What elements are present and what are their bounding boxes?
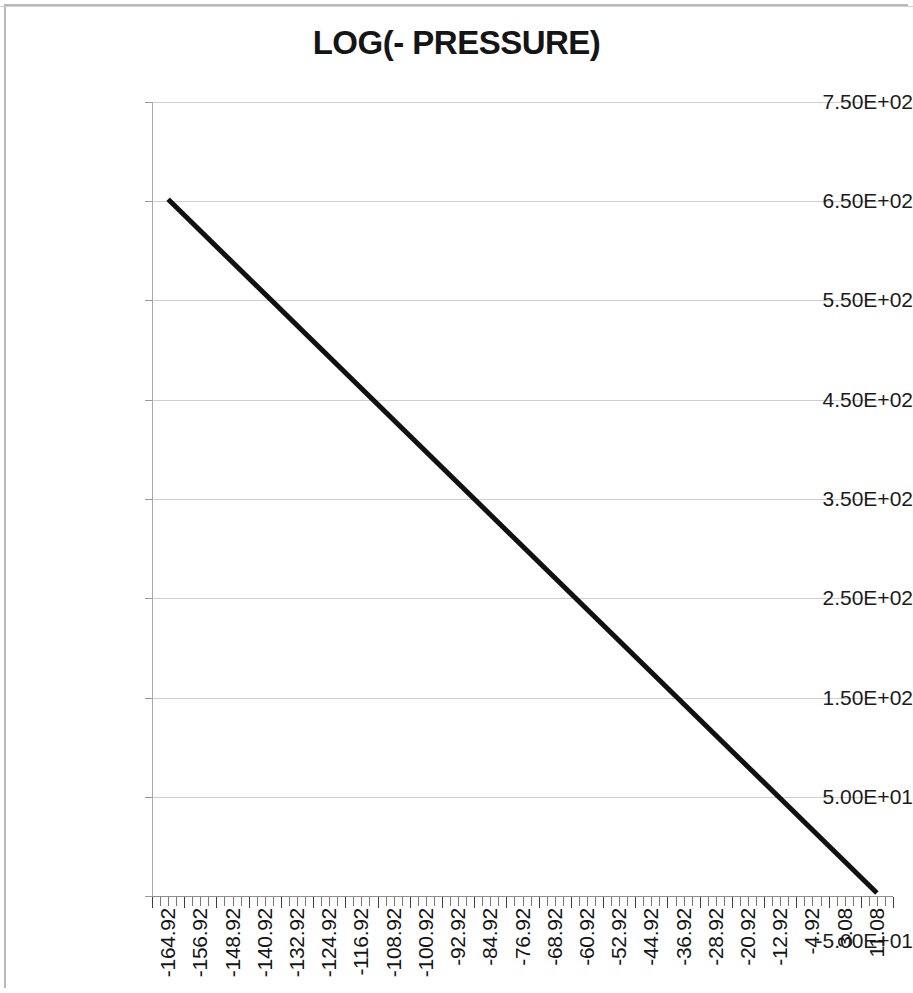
x-minor-tick	[434, 897, 435, 906]
x-minor-tick	[514, 897, 515, 906]
y-tick-mark	[145, 102, 152, 103]
x-minor-tick	[845, 897, 846, 906]
x-minor-tick	[353, 897, 354, 906]
x-minor-tick	[386, 897, 387, 906]
chart-page: LOG(- PRESSURE) 7.50E+02 6.50E+02 5.50E+…	[0, 0, 913, 993]
x-minor-tick	[337, 897, 338, 906]
chart-title: LOG(- PRESSURE)	[0, 24, 913, 62]
x-major-tick	[667, 897, 668, 908]
x-minor-tick	[716, 897, 717, 906]
x-minor-tick	[676, 897, 677, 906]
x-axis-label-8: -100.92	[414, 908, 438, 977]
x-minor-tick	[168, 897, 169, 906]
y-axis-label-2: 5.50E+02	[775, 288, 913, 312]
x-minor-tick	[233, 897, 234, 906]
x-major-tick	[571, 897, 572, 908]
y-axis-label-5: 2.50E+02	[775, 586, 913, 610]
x-minor-tick	[788, 897, 789, 906]
x-axis-label-22: 11.08	[865, 908, 889, 958]
x-major-tick	[474, 897, 475, 908]
x-minor-tick	[289, 897, 290, 906]
x-minor-tick	[740, 897, 741, 906]
x-axis-label-1: -156.92	[188, 908, 212, 977]
y-tick-mark	[145, 499, 152, 500]
x-major-tick	[539, 897, 540, 908]
x-minor-tick	[369, 897, 370, 906]
x-major-tick	[410, 897, 411, 908]
x-minor-tick	[265, 897, 266, 906]
x-minor-tick	[192, 897, 193, 906]
y-tick-mark	[145, 797, 152, 798]
x-minor-tick	[804, 897, 805, 906]
x-minor-tick	[627, 897, 628, 906]
x-major-tick	[378, 897, 379, 908]
y-axis-label-0: 7.50E+02	[775, 90, 913, 114]
x-axis-label-15: -44.92	[639, 908, 663, 966]
x-minor-tick	[297, 897, 298, 906]
x-major-tick	[861, 897, 862, 908]
x-minor-tick	[321, 897, 322, 906]
x-minor-tick	[587, 897, 588, 906]
x-axis-label-11: -76.92	[511, 908, 535, 966]
x-minor-tick	[273, 897, 274, 906]
y-tick-mark	[145, 698, 152, 699]
x-axis-label-13: -60.92	[575, 908, 599, 966]
x-major-tick	[216, 897, 217, 908]
x-minor-tick	[523, 897, 524, 906]
x-axis-label-5: -124.92	[317, 908, 341, 977]
x-minor-tick	[466, 897, 467, 906]
x-major-tick	[249, 897, 250, 908]
x-axis-label-12: -68.92	[543, 908, 567, 966]
y-axis-label-6: 1.50E+02	[775, 686, 913, 710]
x-minor-tick	[160, 897, 161, 906]
x-minor-tick	[547, 897, 548, 906]
x-axis-label-4: -132.92	[285, 908, 309, 977]
x-minor-tick	[821, 897, 822, 906]
x-minor-tick	[579, 897, 580, 906]
x-minor-tick	[361, 897, 362, 906]
x-major-tick	[281, 897, 282, 908]
x-minor-tick	[458, 897, 459, 906]
y-axis-label-3: 4.50E+02	[775, 388, 913, 412]
x-minor-tick	[402, 897, 403, 906]
x-minor-tick	[643, 897, 644, 906]
y-tick-mark	[145, 400, 152, 401]
x-major-tick	[764, 897, 765, 908]
x-minor-tick	[837, 897, 838, 906]
y-tick-mark	[145, 598, 152, 599]
x-major-tick	[603, 897, 604, 908]
x-axis-label-3: -140.92	[253, 908, 277, 977]
x-major-tick	[152, 897, 153, 908]
x-minor-tick	[708, 897, 709, 906]
y-axis-label-1: 6.50E+02	[775, 189, 913, 213]
x-major-tick	[893, 897, 894, 908]
x-axis-label-17: -28.92	[704, 908, 728, 966]
x-minor-tick	[651, 897, 652, 906]
x-minor-tick	[877, 897, 878, 906]
x-minor-tick	[426, 897, 427, 906]
x-major-tick	[829, 897, 830, 908]
x-minor-tick	[200, 897, 201, 906]
x-minor-tick	[176, 897, 177, 906]
x-minor-tick	[208, 897, 209, 906]
y-axis-label-7: 5.00E+01	[775, 785, 913, 809]
x-minor-tick	[595, 897, 596, 906]
x-major-tick	[442, 897, 443, 908]
y-axis-line	[152, 102, 153, 897]
x-axis-label-7: -108.92	[382, 908, 406, 977]
x-minor-tick	[241, 897, 242, 906]
x-minor-tick	[329, 897, 330, 906]
y-tick-mark	[145, 201, 152, 202]
x-major-tick	[700, 897, 701, 908]
x-minor-tick	[772, 897, 773, 906]
x-minor-tick	[619, 897, 620, 906]
x-major-tick	[345, 897, 346, 908]
x-axis-label-18: -20.92	[736, 908, 760, 966]
y-tick-mark	[145, 896, 152, 897]
x-minor-tick	[812, 897, 813, 906]
x-minor-tick	[780, 897, 781, 906]
x-minor-tick	[692, 897, 693, 906]
x-minor-tick	[724, 897, 725, 906]
x-minor-tick	[490, 897, 491, 906]
x-minor-tick	[853, 897, 854, 906]
